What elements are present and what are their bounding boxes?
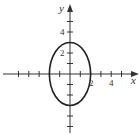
- x-axis-label: x: [130, 74, 136, 86]
- y-axis-arrow-icon: [67, 4, 73, 12]
- ellipse-diagram: x y 2 4 2 4: [0, 0, 140, 135]
- y-tick-label-4: 4: [60, 27, 65, 37]
- y-axis-label: y: [58, 2, 64, 14]
- y-tick-label-2: 2: [60, 48, 65, 58]
- x-tick-label-4: 4: [109, 78, 114, 88]
- x-tick-label-2: 2: [89, 78, 94, 88]
- coordinate-plane: x y 2 4 2 4: [0, 0, 140, 135]
